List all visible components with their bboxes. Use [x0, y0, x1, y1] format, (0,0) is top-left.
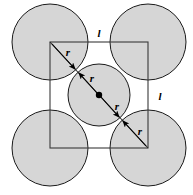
- geometry-diagram: r r r r l l: [0, 0, 193, 195]
- label-r-center-upper: r: [90, 72, 95, 84]
- geometry-canvas: r r r r l l: [0, 0, 193, 195]
- label-r-top-left: r: [66, 46, 71, 58]
- label-r-center-lower: r: [115, 100, 120, 112]
- label-r-bottom-right: r: [138, 125, 143, 137]
- label-l-top-edge: l: [97, 27, 101, 39]
- label-l-right-edge: l: [158, 90, 162, 102]
- center-point-dot: [96, 92, 102, 98]
